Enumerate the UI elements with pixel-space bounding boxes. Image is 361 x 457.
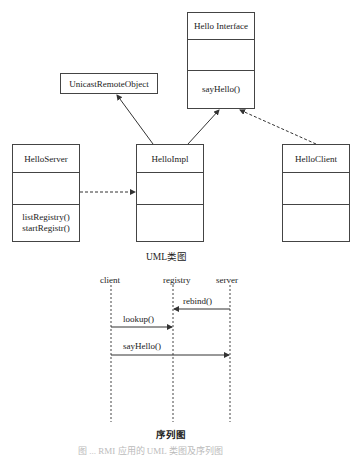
method: listRegistry() bbox=[22, 212, 70, 223]
class-attributes bbox=[137, 173, 203, 205]
message-sayhello: sayHello() bbox=[123, 341, 161, 351]
class-methods bbox=[137, 205, 203, 241]
class-hello-server: HelloServer listRegistry() startRegistr(… bbox=[12, 144, 80, 242]
class-name: Hello Interface bbox=[188, 13, 254, 40]
message-lookup: lookup() bbox=[123, 314, 154, 324]
class-unicast-remote-object: UnicastRemoteObject bbox=[60, 73, 158, 94]
class-hello-client: HelloClient bbox=[282, 144, 350, 242]
class-name: UnicastRemoteObject bbox=[61, 74, 157, 93]
class-name: HelloServer bbox=[13, 145, 79, 173]
class-hello-interface: Hello Interface sayHello() bbox=[187, 12, 255, 109]
class-attributes bbox=[13, 173, 79, 205]
lifeline-server: server bbox=[216, 275, 238, 285]
message-rebind: rebind() bbox=[183, 296, 212, 306]
figure-caption: 图 ... RMI 应用的 UML 类图及序列图 bbox=[78, 444, 223, 457]
class-name: HelloClient bbox=[283, 145, 349, 173]
class-hello-impl: HelloImpl bbox=[136, 144, 204, 242]
sequence-diagram-caption: 序列图 bbox=[156, 427, 186, 441]
lifeline-registry: registry bbox=[163, 275, 191, 285]
class-methods: sayHello() bbox=[188, 71, 254, 108]
method: sayHello() bbox=[202, 84, 240, 95]
class-attributes bbox=[188, 40, 254, 71]
class-methods: listRegistry() startRegistr() bbox=[13, 205, 79, 241]
class-attributes bbox=[283, 173, 349, 205]
class-name: HelloImpl bbox=[137, 145, 203, 173]
method: startRegistr() bbox=[22, 223, 70, 234]
class-methods bbox=[283, 205, 349, 241]
class-diagram-caption: UML类图 bbox=[146, 249, 187, 263]
lifeline-client: client bbox=[100, 275, 120, 285]
